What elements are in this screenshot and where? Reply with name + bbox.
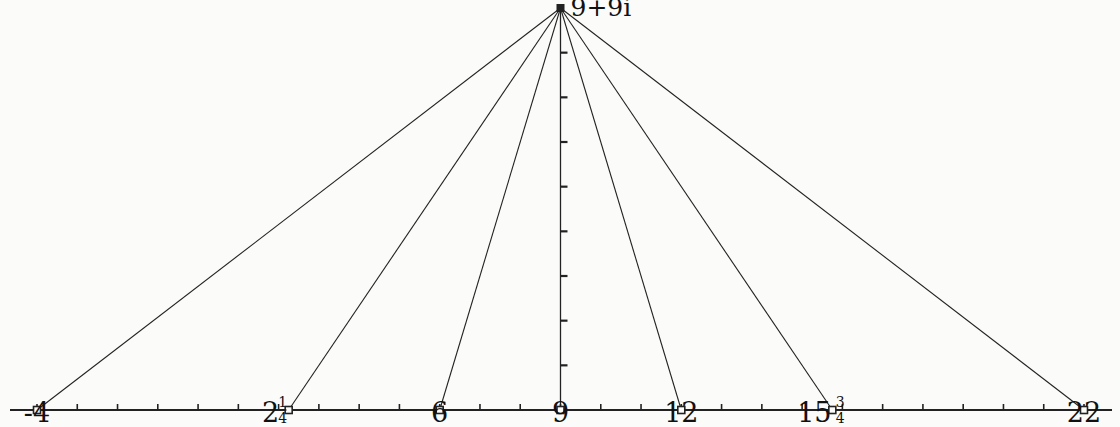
apex-marker	[557, 4, 565, 12]
point-label-whole: 9	[552, 397, 569, 427]
point-label: 9	[552, 397, 569, 427]
ray-line	[561, 8, 682, 410]
fraction-numerator: 3	[836, 394, 845, 410]
point-label-whole: 22	[1067, 397, 1101, 427]
number-line-diagram: -421469121534229+9i	[0, 0, 1120, 427]
point-label: 12	[664, 397, 698, 427]
ray-line	[561, 8, 833, 410]
ray-line	[289, 8, 561, 410]
fraction-denominator: 4	[836, 410, 845, 426]
point-label: 1534	[797, 394, 845, 427]
point-label: 214	[262, 394, 287, 427]
point-label: 22	[1067, 397, 1101, 427]
fraction-numerator: 1	[278, 394, 287, 410]
point-label-whole: 15	[797, 397, 831, 427]
apex-label: 9+9i	[571, 0, 632, 22]
point-label-whole: -4	[24, 397, 50, 427]
ray-line	[440, 8, 561, 410]
point-label-whole: 12	[664, 397, 698, 427]
diagram-canvas: -421469121534229+9i	[0, 0, 1120, 427]
ray-line	[37, 8, 561, 410]
point-label-whole: 2	[262, 397, 279, 427]
ray-line	[561, 8, 1085, 410]
point-label: -4	[24, 397, 50, 427]
point-label-whole: 6	[431, 397, 448, 427]
point-label: 6	[431, 397, 448, 427]
fraction-denominator: 4	[278, 410, 287, 426]
